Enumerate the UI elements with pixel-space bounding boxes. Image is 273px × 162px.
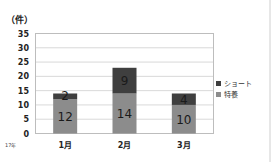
data-label: 14: [117, 107, 132, 121]
data-label: 2: [61, 89, 69, 103]
legend-swatch: [216, 81, 221, 86]
bars: 122149104: [53, 68, 196, 134]
y-axis: 05101520253035: [18, 30, 30, 139]
x-tick-label: 3月: [177, 141, 191, 150]
x-tick-label: 2月: [118, 141, 132, 150]
y-tick-label: 0: [23, 130, 29, 139]
y-tick-label: 35: [18, 30, 30, 39]
data-label: 12: [58, 110, 73, 124]
x-year-annotation: 17年: [5, 142, 16, 149]
y-tick-label: 25: [18, 58, 30, 67]
data-label: 4: [180, 93, 188, 107]
y-tick-label: 15: [18, 87, 30, 96]
y-tick-label: 10: [18, 101, 30, 110]
legend-label: 特養: [224, 90, 238, 99]
legend-label: ショート: [224, 80, 252, 88]
y-tick-label: 30: [18, 44, 30, 53]
y-unit-label: （件）: [6, 14, 33, 25]
stacked-bar-chart: （件） 05101520253035 122149104 1月2月3月 17年 …: [0, 0, 273, 162]
legend-swatch: [216, 92, 221, 97]
y-tick-label: 5: [23, 115, 29, 124]
y-tick-label: 20: [18, 72, 30, 81]
data-label: 10: [176, 113, 191, 127]
x-tick-label: 1月: [58, 141, 72, 150]
legend: ショート特養: [216, 80, 252, 99]
data-label: 9: [121, 74, 129, 88]
x-axis: 1月2月3月: [58, 141, 190, 150]
